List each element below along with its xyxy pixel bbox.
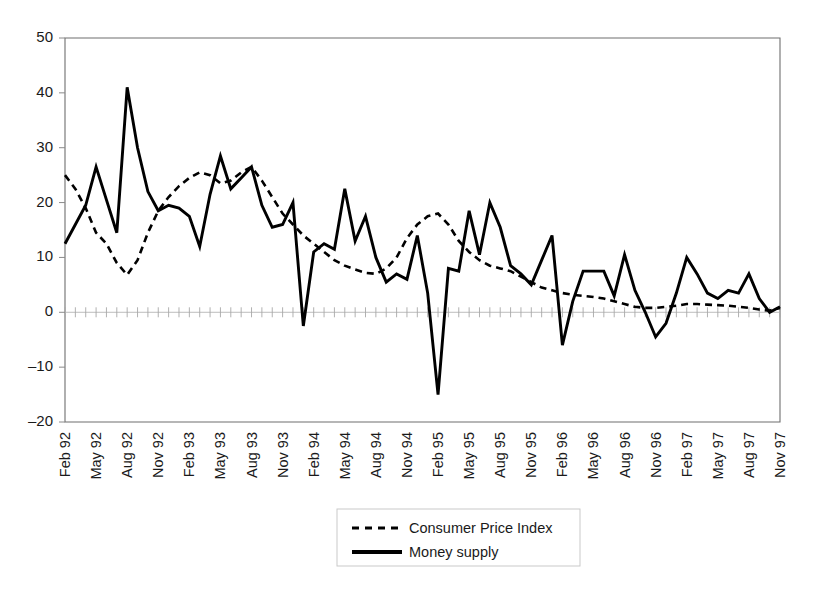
y-axis-tick-label: 40 <box>36 83 53 100</box>
plot-frame <box>65 38 780 422</box>
x-axis-tick-label: Aug 96 <box>617 432 633 478</box>
series-line-money-supply <box>65 87 780 394</box>
x-axis-tick-label: Aug 93 <box>244 432 260 478</box>
y-axis-ticks <box>59 38 65 422</box>
legend-label-money-supply: Money supply <box>409 544 499 560</box>
x-axis-tick-label: May 92 <box>88 432 104 480</box>
x-axis-tick-labels: Feb 92May 92Aug 92Nov 92Feb 93May 93Aug … <box>57 432 788 480</box>
x-axis-tick-label: Nov 92 <box>150 432 166 478</box>
x-axis-tick-label: May 94 <box>337 432 353 480</box>
series-line-consumer-price-index <box>65 167 780 311</box>
x-axis-tick-label: May 95 <box>461 432 477 480</box>
chart-container: –20–1001020304050 Feb 92May 92Aug 92Nov … <box>0 0 818 597</box>
x-axis-tick-label: Feb 93 <box>181 432 197 477</box>
y-axis-tick-label: 0 <box>45 302 53 319</box>
x-axis-tick-label: Nov 97 <box>772 432 788 478</box>
x-axis-tick-label: Nov 96 <box>648 432 664 478</box>
y-axis-tick-label: –20 <box>28 412 53 429</box>
y-axis-tick-label: 50 <box>36 28 53 45</box>
x-axis-tick-label: Feb 92 <box>57 432 73 477</box>
x-axis-tick-label: Nov 94 <box>399 432 415 478</box>
y-axis-tick-label: 30 <box>36 138 53 155</box>
y-axis-tick-labels: –20–1001020304050 <box>28 28 53 429</box>
series-group <box>65 87 780 394</box>
x-axis-tick-label: Feb 97 <box>679 432 695 477</box>
x-axis-tick-label: Aug 92 <box>119 432 135 478</box>
legend: Consumer Price Index Money supply <box>337 509 580 566</box>
legend-label-consumer-price-index: Consumer Price Index <box>409 520 553 536</box>
x-axis-tick-label: May 96 <box>585 432 601 480</box>
x-axis-tick-label: Feb 95 <box>430 432 446 477</box>
x-axis-tick-label: Aug 95 <box>492 432 508 478</box>
x-axis-tick-label: Feb 94 <box>306 432 322 477</box>
line-chart: –20–1001020304050 Feb 92May 92Aug 92Nov … <box>0 0 818 597</box>
x-axis-tick-label: Nov 95 <box>523 432 539 478</box>
x-axis-tick-label: Aug 94 <box>368 432 384 478</box>
x-axis-tick-label: Aug 97 <box>741 432 757 478</box>
y-axis-tick-label: 20 <box>36 193 53 210</box>
y-axis-tick-label: 10 <box>36 247 53 264</box>
x-axis-tick-label: May 97 <box>710 432 726 480</box>
y-axis-tick-label: –10 <box>28 357 53 374</box>
x-axis-tick-label: May 93 <box>212 432 228 480</box>
x-axis-tick-label: Feb 96 <box>554 432 570 477</box>
x-axis-tick-label: Nov 93 <box>275 432 291 478</box>
